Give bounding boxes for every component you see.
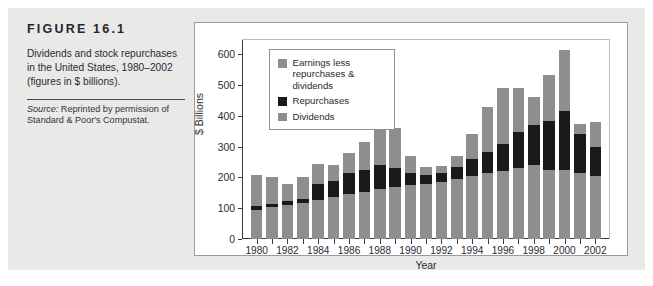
y-tick-label: 200 <box>198 172 242 183</box>
x-tick-mark <box>534 239 535 244</box>
bar-segment-dividends <box>328 197 340 239</box>
x-tick-label: 1986 <box>338 245 360 256</box>
legend-item: Earnings less repurchases & dividends <box>278 57 386 91</box>
bar-segment-repurchases <box>374 165 386 189</box>
x-tick-mark <box>565 239 566 244</box>
bar-segment-dividends <box>297 203 309 239</box>
bar-segment-earnings-less <box>543 75 555 121</box>
bar-segment-dividends <box>528 165 540 239</box>
bar-segment-dividends <box>482 173 494 239</box>
x-tick-label: 1984 <box>307 245 329 256</box>
legend-label: Repurchases <box>293 95 350 106</box>
bar-segment-repurchases <box>574 134 586 172</box>
bar-segment-earnings-less <box>497 88 509 143</box>
x-tick-mark <box>287 239 288 244</box>
bar-segment-dividends <box>436 182 448 239</box>
bar-segment-earnings-less <box>513 88 525 132</box>
bar-segment-dividends <box>282 205 294 239</box>
bar-segment-earnings-less <box>590 122 602 147</box>
x-tick-mark <box>303 239 304 244</box>
legend-label: Dividends <box>293 111 335 122</box>
bar-segment-repurchases <box>266 204 278 208</box>
bar-segment-repurchases <box>497 144 509 171</box>
bar-segment-earnings-less <box>266 177 278 203</box>
x-tick-mark <box>595 239 596 244</box>
bar-segment-earnings-less <box>312 164 324 184</box>
legend-item: Dividends <box>278 111 386 122</box>
bar-segment-repurchases <box>528 125 540 166</box>
x-tick-mark <box>364 239 365 244</box>
y-tick-label: 100 <box>198 203 242 214</box>
bar-segment-repurchases <box>513 132 525 168</box>
x-tick-mark <box>503 239 504 244</box>
caption-divider <box>27 99 185 100</box>
bar-1996 <box>497 39 509 239</box>
x-tick-mark <box>272 239 273 244</box>
bar-1994 <box>466 39 478 239</box>
bar-segment-dividends <box>559 170 571 239</box>
bar-segment-dividends <box>312 200 324 239</box>
x-tick-label: 1980 <box>245 245 267 256</box>
y-tick-label: 500 <box>198 80 242 91</box>
y-tick-label: 300 <box>198 141 242 152</box>
legend-label: Earnings less repurchases & dividends <box>293 57 387 91</box>
figure-description: Dividends and stock repurchases in the U… <box>27 47 187 90</box>
x-tick-mark <box>457 239 458 244</box>
bar-segment-repurchases <box>251 206 263 210</box>
y-tick-label: 600 <box>198 49 242 60</box>
bar-segment-repurchases <box>328 181 340 197</box>
bar-segment-dividends <box>359 192 371 239</box>
bar-segment-earnings-less <box>451 156 463 167</box>
bar-1993 <box>451 39 463 239</box>
bar-segment-earnings-less <box>282 184 294 200</box>
bar-2002 <box>590 39 602 239</box>
bar-segment-repurchases <box>359 170 371 192</box>
bar-segment-dividends <box>343 194 355 239</box>
bar-segment-earnings-less <box>466 134 478 159</box>
legend-item: Repurchases <box>278 95 386 106</box>
bar-segment-dividends <box>420 184 432 239</box>
bar-segment-earnings-less <box>297 177 309 199</box>
bar-segment-repurchases <box>466 159 478 176</box>
bar-segment-dividends <box>466 176 478 239</box>
bar-segment-repurchases <box>482 152 494 173</box>
x-tick-label: 1994 <box>461 245 483 256</box>
bar-1990 <box>405 39 417 239</box>
figure-page: FIGURE 16.1 Dividends and stock repurcha… <box>0 0 653 286</box>
bar-segment-dividends <box>574 173 586 239</box>
bar-segment-earnings-less <box>405 156 417 174</box>
x-tick-mark <box>349 239 350 244</box>
x-tick-mark <box>318 239 319 244</box>
bar-segment-repurchases <box>543 121 555 170</box>
bar-segment-earnings-less <box>528 97 540 125</box>
bar-segment-repurchases <box>420 175 432 184</box>
x-tick-mark <box>472 239 473 244</box>
bar-1991 <box>420 39 432 239</box>
bar-segment-dividends <box>497 171 509 239</box>
figure-source: Source: Reprinted by permission of Stand… <box>27 104 187 127</box>
bar-segment-dividends <box>251 210 263 239</box>
chart-legend: Earnings less repurchases & dividendsRep… <box>269 49 395 130</box>
x-tick-mark <box>334 239 335 244</box>
chart-panel: $ Billions 0100200300400500600 198019821… <box>194 22 628 256</box>
bar-2000 <box>559 39 571 239</box>
x-tick-label: 2002 <box>584 245 606 256</box>
bar-segment-repurchases <box>282 201 294 206</box>
bar-segment-dividends <box>374 189 386 239</box>
legend-swatch-icon <box>278 59 287 68</box>
y-tick-mark <box>238 239 243 240</box>
bar-segment-dividends <box>451 179 463 239</box>
bar-1998 <box>528 39 540 239</box>
bar-segment-repurchases <box>559 111 571 169</box>
source-word: Source: <box>27 104 58 114</box>
x-tick-mark <box>426 239 427 244</box>
x-tick-mark <box>411 239 412 244</box>
bar-segment-earnings-less <box>559 50 571 112</box>
bar-1995 <box>482 39 494 239</box>
x-tick-mark <box>488 239 489 244</box>
bar-1999 <box>543 39 555 239</box>
bar-segment-earnings-less <box>420 167 432 175</box>
x-tick-mark <box>380 239 381 244</box>
legend-swatch-icon <box>278 97 287 106</box>
bar-segment-dividends <box>513 168 525 239</box>
